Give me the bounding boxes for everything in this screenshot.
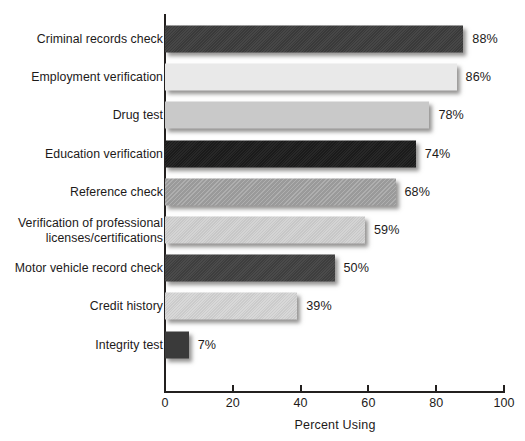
bar-row: Credit history39%	[0, 287, 525, 325]
bar-row: Verification of professional licenses/ce…	[0, 211, 525, 249]
bar-wrapper	[165, 26, 463, 53]
bar-value-label: 74%	[425, 147, 451, 161]
x-axis-tick-label: 40	[281, 396, 321, 410]
bar-wrapper	[165, 255, 335, 282]
category-label: Employment verification	[0, 70, 163, 85]
x-axis-tick	[367, 385, 369, 392]
category-label: Reference check	[0, 185, 163, 200]
bar-wrapper	[165, 102, 429, 129]
plot-area: 020406080100 Percent Using Criminal reco…	[0, 0, 525, 441]
bar-value-label: 68%	[405, 185, 431, 199]
category-label: Drug test	[0, 108, 163, 123]
bar[interactable]	[165, 140, 416, 167]
bar-wrapper	[165, 140, 416, 167]
x-axis-line	[164, 391, 505, 393]
bar-row: Motor vehicle record check50%	[0, 249, 525, 287]
bar-row: Drug test78%	[0, 96, 525, 134]
bar[interactable]	[165, 293, 297, 320]
bar[interactable]	[165, 217, 365, 244]
bar-row: Integrity test7%	[0, 326, 525, 364]
category-label: Criminal records check	[0, 32, 163, 47]
bar[interactable]	[165, 255, 335, 282]
bar-wrapper	[165, 64, 457, 91]
x-axis-tick-label: 20	[213, 396, 253, 410]
bar-value-label: 50%	[344, 261, 370, 275]
bar-chart: 020406080100 Percent Using Criminal reco…	[0, 0, 525, 441]
bar-value-label: 88%	[472, 32, 498, 46]
category-label: Education verification	[0, 146, 163, 161]
bar-value-label: 59%	[374, 223, 400, 237]
bar-row: Criminal records check88%	[0, 20, 525, 58]
x-axis-tick-label: 100	[484, 396, 524, 410]
x-axis-tick	[435, 385, 437, 392]
bar-value-label: 78%	[438, 108, 464, 122]
x-axis-tick	[164, 385, 166, 392]
x-axis-tick	[232, 385, 234, 392]
bar-value-label: 7%	[198, 338, 216, 352]
x-axis-tick-label: 0	[145, 396, 185, 410]
bar-wrapper	[165, 217, 365, 244]
bar[interactable]	[165, 331, 189, 358]
bar-value-label: 86%	[466, 70, 492, 84]
category-label: Credit history	[0, 299, 163, 314]
x-axis-tick-label: 60	[348, 396, 388, 410]
bar-row: Employment verification86%	[0, 58, 525, 96]
bar[interactable]	[165, 102, 429, 129]
category-label: Motor vehicle record check	[0, 261, 163, 276]
bar[interactable]	[165, 26, 463, 53]
bar-row: Reference check68%	[0, 173, 525, 211]
bar[interactable]	[165, 64, 457, 91]
bar[interactable]	[165, 178, 396, 205]
bar-value-label: 39%	[306, 299, 332, 313]
x-axis-tick	[503, 385, 505, 392]
x-axis-tick-label: 80	[416, 396, 456, 410]
bar-wrapper	[165, 293, 297, 320]
category-label: Integrity test	[0, 337, 163, 352]
bar-wrapper	[165, 178, 396, 205]
x-axis-title: Percent Using	[165, 418, 505, 432]
category-label: Verification of professional licenses/ce…	[0, 216, 163, 245]
x-axis-tick	[300, 385, 302, 392]
bar-row: Education verification74%	[0, 135, 525, 173]
bar-wrapper	[165, 331, 189, 358]
